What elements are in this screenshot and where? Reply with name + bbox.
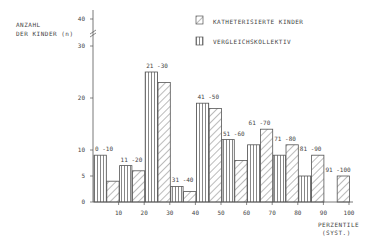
bar-katheterisierte-kinder xyxy=(184,192,196,202)
x-tick-label: 50 xyxy=(217,209,225,216)
x-tick-label: 60 xyxy=(243,209,251,216)
legend-swatch-kath xyxy=(196,16,203,24)
category-label: 91 -100 xyxy=(325,166,351,173)
category-label: 51 -60 xyxy=(223,130,245,137)
bar-katheterisierte-kinder xyxy=(107,181,119,202)
bar-chart: 05102030401020304050607080901000 -1011 -… xyxy=(0,0,375,245)
bar-vergleichskollektiv xyxy=(248,145,260,202)
category-label: 81 -90 xyxy=(300,145,322,152)
bar-vergleichskollektiv xyxy=(120,166,132,202)
bar-katheterisierte-kinder xyxy=(209,108,221,202)
bar-vergleichskollektiv xyxy=(145,72,157,202)
legend-swatch-vergl xyxy=(196,37,203,45)
y-tick-label: 30 xyxy=(78,42,86,49)
x-tick-label: 30 xyxy=(166,209,174,216)
x-tick-label: 10 xyxy=(115,209,123,216)
category-label: 31 -40 xyxy=(172,176,194,183)
x-tick-label: 90 xyxy=(320,209,328,216)
category-label: 71 -80 xyxy=(274,135,296,142)
x-tick-label: 20 xyxy=(141,209,149,216)
y-tick-label: 10 xyxy=(78,146,86,153)
y-tick-label: 0 xyxy=(81,198,85,205)
category-label: 0 -10 xyxy=(95,145,113,152)
bar-vergleichskollektiv xyxy=(196,103,208,202)
bar-katheterisierte-kinder xyxy=(132,171,144,202)
y-tick-label: 20 xyxy=(78,94,86,101)
x-tick-label: 100 xyxy=(344,209,355,216)
bar-vergleichskollektiv xyxy=(273,155,285,202)
bar-katheterisierte-kinder xyxy=(260,129,272,202)
bar-vergleichskollektiv xyxy=(94,155,106,202)
x-tick-label: 70 xyxy=(269,209,277,216)
category-label: 11 -20 xyxy=(121,156,143,163)
bar-katheterisierte-kinder xyxy=(158,82,170,202)
bar-katheterisierte-kinder xyxy=(337,176,349,202)
bar-vergleichskollektiv xyxy=(222,140,234,202)
category-label: 61 -70 xyxy=(249,119,271,126)
bar-vergleichskollektiv xyxy=(299,176,311,202)
y-tick-label: 40 xyxy=(78,15,86,22)
bar-katheterisierte-kinder xyxy=(312,155,324,202)
category-label: 21 -30 xyxy=(146,62,168,69)
x-tick-label: 80 xyxy=(294,209,302,216)
bar-katheterisierte-kinder xyxy=(235,160,247,202)
category-label: 41 -50 xyxy=(197,93,219,100)
x-tick-label: 40 xyxy=(192,209,200,216)
bar-vergleichskollektiv xyxy=(171,186,183,202)
bar-katheterisierte-kinder xyxy=(286,145,298,202)
y-tick-label: 5 xyxy=(81,172,85,179)
